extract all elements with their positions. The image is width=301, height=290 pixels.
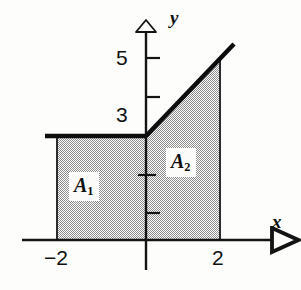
y-tick-label-3: 3 <box>116 104 128 125</box>
region-label-a2-letter: A <box>171 150 184 172</box>
x-axis-label: x <box>272 212 282 231</box>
region-label-a2: A2 <box>166 148 196 177</box>
y-axis-arrowhead-icon <box>136 20 156 32</box>
region-label-a2-subscript: 2 <box>184 160 190 174</box>
region-label-a1-subscript: 1 <box>87 184 93 198</box>
piecewise-area-figure: y x 5 3 −2 2 A1 A2 <box>0 0 301 290</box>
region-label-a1-letter: A <box>74 174 87 196</box>
y-axis-label: y <box>170 8 178 27</box>
x-tick-label-2: 2 <box>212 247 224 268</box>
y-tick-label-5: 5 <box>116 47 128 68</box>
region-label-a1: A1 <box>69 172 99 201</box>
x-tick-label-neg-2: −2 <box>44 247 68 268</box>
